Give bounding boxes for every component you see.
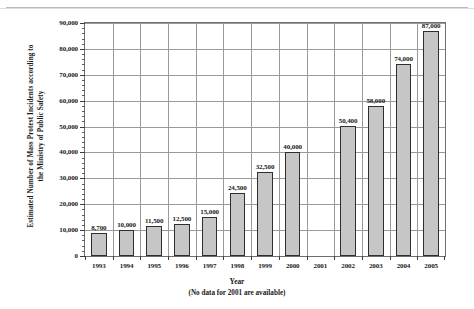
- x-axis-tick-label: 1996: [175, 262, 189, 270]
- x-axis-tick-label: 1994: [120, 262, 134, 270]
- x-axis-tick-label: 2001: [314, 262, 328, 270]
- x-axis-tick: [168, 256, 169, 260]
- y-axis-minor-tick: [82, 189, 85, 190]
- bar: 50,400: [340, 126, 356, 256]
- x-axis-footnote: (No data for 2001 are available): [0, 289, 474, 297]
- y-axis-minor-tick: [82, 116, 85, 117]
- x-axis-tick-label: 1998: [230, 262, 244, 270]
- bar: 8,700: [91, 233, 107, 256]
- y-axis-minor-tick: [82, 137, 85, 138]
- y-axis-tick: [80, 101, 85, 102]
- x-axis-tick: [417, 256, 418, 260]
- y-axis-tick-label: 0: [75, 252, 78, 260]
- y-axis-minor-tick: [82, 59, 85, 60]
- x-axis-tick: [251, 256, 252, 260]
- x-axis-tick: [362, 256, 363, 260]
- y-axis-minor-tick: [82, 199, 85, 200]
- x-axis-tick: [307, 256, 308, 260]
- x-axis-tick: [196, 256, 197, 260]
- bar: 74,000: [396, 64, 412, 256]
- x-axis-tick-label: 1997: [203, 262, 217, 270]
- bar-value-label: 50,400: [339, 117, 358, 125]
- bar: 15,000: [202, 217, 218, 256]
- plot-area: 8,70010,00011,50012,50015,00024,50032,50…: [84, 22, 446, 257]
- y-axis-minor-tick: [82, 39, 85, 40]
- y-axis-minor-tick: [82, 173, 85, 174]
- y-axis-minor-tick: [82, 28, 85, 29]
- bar: 11,500: [146, 226, 162, 256]
- y-axis-minor-tick: [82, 246, 85, 247]
- y-axis-minor-tick: [82, 220, 85, 221]
- y-axis-minor-tick: [82, 132, 85, 133]
- x-axis-tick: [140, 256, 141, 260]
- y-axis-minor-tick: [82, 163, 85, 164]
- y-axis-minor-tick: [82, 80, 85, 81]
- y-axis-tick-label: 10,000: [59, 226, 78, 234]
- x-axis-tick: [334, 256, 335, 260]
- y-axis-tick-label: 60,000: [59, 97, 78, 105]
- bar: 58,000: [368, 106, 384, 256]
- y-axis-title-line-1: Estimated Number of Mass Protest Inciden…: [26, 44, 36, 227]
- bar-value-label: 58,000: [366, 97, 385, 105]
- y-axis-minor-tick: [82, 90, 85, 91]
- y-axis-minor-tick: [82, 70, 85, 71]
- y-axis-tick: [80, 75, 85, 76]
- y-axis-tick: [80, 23, 85, 24]
- y-axis-tick-label: 50,000: [59, 123, 78, 131]
- bar-value-label: 8,700: [91, 224, 106, 232]
- bar-value-label: 40,000: [283, 143, 302, 151]
- bar-value-label: 74,000: [394, 55, 413, 63]
- x-axis-tick-label: 2002: [341, 262, 355, 270]
- y-axis-minor-tick: [82, 158, 85, 159]
- bar: 40,000: [285, 152, 301, 256]
- x-axis-tick: [444, 256, 445, 260]
- bar: 10,000: [119, 230, 135, 256]
- y-axis-tick-label: 90,000: [59, 19, 78, 27]
- y-axis-minor-tick: [82, 168, 85, 169]
- bar-value-label: 12,500: [173, 215, 192, 223]
- y-axis-tick: [80, 49, 85, 50]
- y-axis-minor-tick: [82, 44, 85, 45]
- y-axis-minor-tick: [82, 121, 85, 122]
- x-axis-title: Year: [0, 277, 474, 286]
- bar: 32,500: [257, 172, 273, 256]
- x-axis-tick-label: 2003: [369, 262, 383, 270]
- x-axis-tick: [85, 256, 86, 260]
- y-axis-minor-tick: [82, 95, 85, 96]
- y-axis-tick-label: 20,000: [59, 200, 78, 208]
- bar: 87,000: [423, 31, 439, 256]
- y-axis-minor-tick: [82, 64, 85, 65]
- y-axis-minor-tick: [82, 240, 85, 241]
- y-axis-title: Estimated Number of Mass Protest Inciden…: [16, 16, 56, 256]
- y-axis-minor-tick: [82, 184, 85, 185]
- y-axis-minor-tick: [82, 106, 85, 107]
- bar-value-label: 15,000: [200, 208, 219, 216]
- y-axis-tick-label: 40,000: [59, 148, 78, 156]
- y-axis-minor-tick: [82, 85, 85, 86]
- y-axis-tick: [80, 204, 85, 205]
- y-axis-tick-label: 80,000: [59, 45, 78, 53]
- y-axis-tick-label: 70,000: [59, 71, 78, 79]
- bar: 12,500: [174, 224, 190, 256]
- bar: 24,500: [230, 193, 246, 256]
- y-axis-minor-tick: [82, 251, 85, 252]
- bar-value-label: 11,500: [145, 217, 163, 225]
- y-axis-tick: [80, 178, 85, 179]
- y-axis-tick-label: 30,000: [59, 174, 78, 182]
- bars-layer: 8,70010,00011,50012,50015,00024,50032,50…: [85, 23, 445, 256]
- y-axis-minor-tick: [82, 142, 85, 143]
- x-axis-tick-label: 1995: [147, 262, 161, 270]
- bar-value-label: 32,500: [256, 163, 275, 171]
- x-axis-tick-label: 2000: [286, 262, 300, 270]
- x-axis-tick: [279, 256, 280, 260]
- y-axis-tick: [80, 127, 85, 128]
- y-axis-title-container: Estimated Number of Mass Protest Inciden…: [16, 16, 56, 256]
- x-axis-tick: [113, 256, 114, 260]
- y-axis-tick: [80, 230, 85, 231]
- y-axis-minor-tick: [82, 209, 85, 210]
- bar-value-label: 10,000: [117, 221, 136, 229]
- y-axis-tick: [80, 152, 85, 153]
- y-axis-title-line-2: the Ministry of Public Safety: [36, 90, 46, 181]
- x-axis-tick-label: 1993: [92, 262, 106, 270]
- y-axis-minor-tick: [82, 235, 85, 236]
